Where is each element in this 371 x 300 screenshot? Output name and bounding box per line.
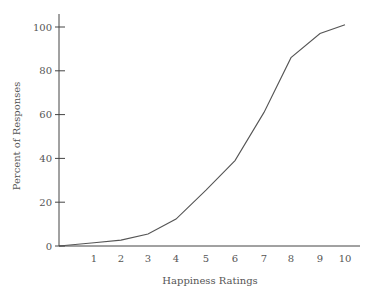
x-tick-label: 7	[261, 253, 267, 264]
x-tick-label: 1	[91, 253, 97, 264]
cumulative-percent-line	[59, 25, 345, 246]
x-axis-ticks: 12345678910	[91, 253, 352, 264]
x-tick-label: 6	[232, 253, 238, 264]
x-tick-label: 2	[118, 253, 124, 264]
x-axis-title: Happiness Ratings	[162, 275, 257, 286]
x-tick-label: 4	[173, 253, 179, 264]
y-tick-label: 100	[33, 22, 52, 33]
x-tick-label: 5	[203, 253, 209, 264]
y-tick-label: 60	[39, 109, 52, 120]
x-tick-label: 8	[288, 253, 294, 264]
y-tick-label: 20	[39, 197, 52, 208]
y-tick-label: 0	[46, 241, 52, 252]
y-axis-title: Percent of Responses	[11, 82, 22, 191]
x-tick-label: 3	[145, 253, 151, 264]
y-tick-label: 40	[39, 153, 52, 164]
y-tick-label: 80	[39, 65, 52, 76]
y-axis-ticks: 020406080100	[33, 22, 65, 252]
cumulative-happiness-line-chart: 020406080100 12345678910 Happiness Ratin…	[0, 0, 371, 300]
x-tick-label: 10	[339, 253, 352, 264]
x-tick-label: 9	[317, 253, 323, 264]
